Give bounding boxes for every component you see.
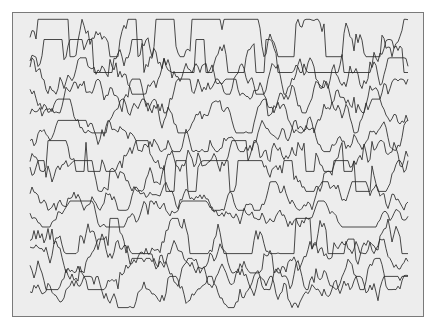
trace-channel-4 [30, 79, 408, 113]
eeg-traces [0, 0, 441, 329]
trace-channel-9 [30, 182, 408, 211]
trace-channel-10 [30, 201, 408, 227]
trace-channel-5 [30, 99, 408, 133]
trace-channel-14 [30, 276, 408, 307]
trace-channel-8 [30, 161, 408, 192]
trace-channel-2 [30, 40, 408, 73]
trace-channel-3 [30, 58, 408, 94]
trace-channel-13 [30, 258, 408, 289]
trace-channel-12 [30, 239, 408, 273]
